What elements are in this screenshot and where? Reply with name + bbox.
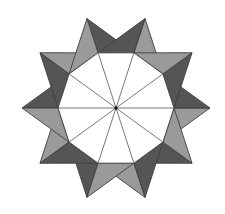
decagon-star-diagram [0, 0, 225, 214]
center-point [114, 106, 117, 109]
